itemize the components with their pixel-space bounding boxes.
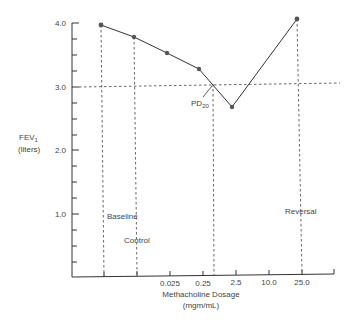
baseline-line <box>101 25 104 276</box>
reversal-label: Reversal <box>285 207 317 216</box>
x-tick-label: 0.25 <box>195 279 211 288</box>
control-label: Control <box>124 236 150 245</box>
y-axis-label-units: (liters) <box>18 145 41 154</box>
x-tick-label: 25.0 <box>294 278 310 287</box>
pd20-line <box>213 84 214 275</box>
x-tick-label: 0.025 <box>160 279 181 288</box>
y-ticks <box>72 23 79 262</box>
baseline-label: Baseline <box>107 212 138 221</box>
x-tick-label: 2.5 <box>230 278 242 287</box>
y-tick-label: 2.0 <box>55 146 67 155</box>
pd20-pointer <box>203 86 212 97</box>
data-points <box>99 17 300 110</box>
y-tick-label: 3.0 <box>55 83 67 92</box>
x-tick-label: 10.0 <box>261 278 277 287</box>
y-tick-label: 4.0 <box>55 19 67 28</box>
y-tick-label: 1.0 <box>55 210 67 219</box>
fev1-series-line <box>101 19 297 107</box>
x-axis-label-units: (mgm/mL) <box>183 301 220 310</box>
reference-lines <box>79 19 340 276</box>
pd20-label: PD20 <box>191 99 209 109</box>
threshold-line-3.0 <box>79 83 340 87</box>
chart: 4.0 3.0 2.0 1.0 FEV1 (liters) 0.025 0.25… <box>0 0 354 321</box>
x-axis-label: Methacholine Dosage <box>162 290 240 299</box>
reversal-line <box>297 19 302 274</box>
y-axis-label: FEV1 <box>19 133 39 143</box>
